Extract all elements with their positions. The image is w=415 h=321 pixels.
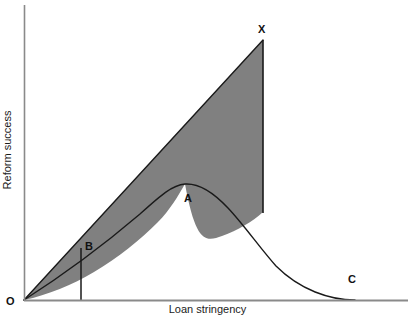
point-label-b: B bbox=[85, 241, 93, 252]
x-axis-title: Loan stringency bbox=[0, 304, 415, 315]
point-label-a: A bbox=[184, 193, 192, 204]
y-axis-title: Reform success bbox=[0, 0, 14, 321]
point-label-c: C bbox=[348, 274, 356, 285]
point-label-x: X bbox=[258, 24, 266, 35]
figure-container: O B A X C Loan stringency Reform success bbox=[0, 0, 415, 321]
y-axis-title-text: Reform success bbox=[2, 111, 13, 190]
